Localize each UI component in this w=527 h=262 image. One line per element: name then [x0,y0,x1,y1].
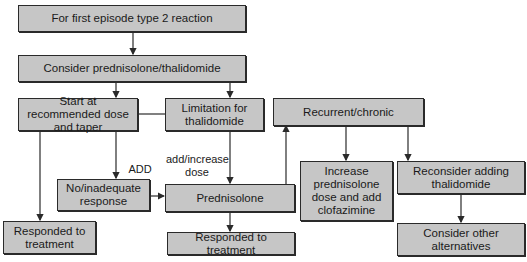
edge-label-add: ADD [127,163,153,176]
node-consider-prednisolone-thalidomide: Consider prednisolone/thalidomide [18,55,246,82]
node-responded-mid: Responded to treatment [167,232,295,255]
node-start-recommended-dose: Start at recommended dose and taper [18,98,138,131]
node-increase-prednisolone-clofazimine: Increase prednisolone dose and add clofa… [300,161,393,221]
node-reconsider-thalidomide: Reconsider adding thalidomide [397,161,525,194]
node-recurrent-chronic: Recurrent/chronic [273,98,424,126]
node-other-alternatives: Consider other alternatives [397,223,525,256]
node-first-episode: For first episode type 2 reaction [18,5,246,32]
edge-label-add-increase-dose: add/increase dose [166,153,228,179]
node-no-inadequate-response: No/inadequate response [57,179,150,211]
node-limitation-thalidomide: Limitation for thalidomide [165,98,264,131]
node-prednisolone: Prednisolone [165,184,295,212]
node-responded-left: Responded to treatment [3,221,96,254]
